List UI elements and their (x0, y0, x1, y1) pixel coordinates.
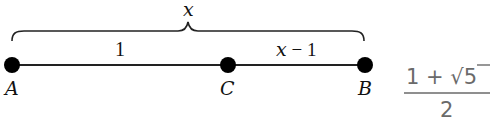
point-b-dot (357, 57, 373, 73)
segment-label-cb-var: x (276, 38, 287, 60)
numerator-left: 1 + (406, 65, 450, 89)
point-c-dot (220, 57, 236, 73)
point-b-label: B (357, 77, 372, 99)
radical-sign: √ (450, 65, 464, 89)
golden-ratio-fraction: 1 + √5 2 (404, 65, 490, 122)
fraction-denominator: 2 (440, 98, 453, 122)
segment-label-cb: x − 1 (276, 38, 316, 60)
golden-ratio-diagram: x 1 x − 1 A C B 1 + √5 2 (0, 0, 493, 123)
segment-label-cb-rest: − 1 (287, 39, 317, 60)
point-a-label: A (3, 77, 19, 99)
fraction-numerator: 1 + √5 (406, 65, 477, 89)
point-a-dot (4, 57, 20, 73)
segment-label-ac: 1 (115, 38, 125, 60)
brace-label: x (183, 0, 194, 20)
radicand: 5 (464, 65, 477, 89)
point-c-label: C (220, 77, 235, 99)
